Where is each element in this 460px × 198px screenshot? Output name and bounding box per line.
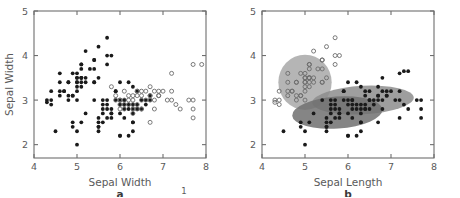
data-point-open xyxy=(148,85,152,89)
data-point-filled xyxy=(282,129,286,133)
data-point-filled xyxy=(97,129,101,133)
data-point-filled xyxy=(325,120,329,124)
data-point-filled xyxy=(92,80,96,84)
data-point-open xyxy=(312,49,316,53)
data-point-filled xyxy=(105,63,109,67)
x-tick-label: 6 xyxy=(345,161,351,172)
data-point-filled xyxy=(346,103,350,107)
panel-a-plot-area: 456782345Sepal WidthSepal Widtha1 xyxy=(3,6,209,198)
x-tick-label: 4 xyxy=(31,161,37,172)
data-point-filled xyxy=(338,116,342,120)
data-point-open xyxy=(191,98,195,102)
corner-label: 1 xyxy=(181,186,186,196)
data-point-filled xyxy=(372,98,376,102)
data-point-filled xyxy=(355,80,359,84)
data-point-open xyxy=(333,36,337,40)
data-point-filled xyxy=(329,103,333,107)
data-point-filled xyxy=(110,54,114,58)
x-tick-label: 6 xyxy=(117,161,123,172)
data-point-filled xyxy=(49,89,53,93)
data-point-open xyxy=(170,89,174,93)
data-point-open xyxy=(131,98,135,102)
data-point-filled xyxy=(419,107,423,111)
data-point-filled xyxy=(359,129,363,133)
data-point-filled xyxy=(368,107,372,111)
data-point-filled xyxy=(79,76,83,80)
data-point-open xyxy=(114,94,118,98)
data-point-filled xyxy=(385,94,389,98)
data-point-filled xyxy=(71,71,75,75)
data-point-filled xyxy=(92,98,96,102)
data-point-filled xyxy=(381,89,385,93)
scatter-panel-b: 456782345Sepal Lengthb xyxy=(228,0,460,197)
data-point-filled xyxy=(329,98,333,102)
data-point-filled xyxy=(398,89,402,93)
y-tick-label: 3 xyxy=(22,95,28,106)
data-point-filled xyxy=(363,89,367,93)
data-point-filled xyxy=(84,80,88,84)
data-point-filled xyxy=(58,80,62,84)
data-point-filled xyxy=(75,143,79,147)
data-point-filled xyxy=(381,98,385,102)
y-tick-label: 2 xyxy=(22,139,28,150)
data-point-filled xyxy=(97,76,101,80)
data-point-filled xyxy=(67,94,71,98)
data-point-filled xyxy=(376,94,380,98)
data-point-filled xyxy=(329,112,333,116)
data-point-filled xyxy=(79,80,83,84)
data-point-open xyxy=(152,89,156,93)
x-tick-label: 7 xyxy=(388,161,394,172)
data-point-filled xyxy=(71,125,75,129)
data-point-filled xyxy=(372,103,376,107)
data-point-filled xyxy=(49,103,53,107)
data-point-filled xyxy=(398,116,402,120)
data-point-open xyxy=(333,54,337,58)
data-point-open xyxy=(333,62,337,66)
data-point-filled xyxy=(127,134,131,138)
data-point-filled xyxy=(320,98,324,102)
figure-container: 456782345Sepal WidthSepal Widtha1 456782… xyxy=(0,0,460,197)
data-point-filled xyxy=(398,98,402,102)
data-point-open xyxy=(200,62,204,66)
data-point-filled xyxy=(79,85,83,89)
data-point-filled xyxy=(325,125,329,129)
data-point-open xyxy=(191,62,195,66)
data-point-open xyxy=(135,94,139,98)
data-point-filled xyxy=(355,103,359,107)
data-point-filled xyxy=(101,98,105,102)
data-point-open xyxy=(127,94,131,98)
data-point-filled xyxy=(84,49,88,53)
data-point-filled xyxy=(325,129,329,133)
data-point-open xyxy=(118,107,122,111)
data-point-filled xyxy=(350,98,354,102)
data-point-filled xyxy=(101,107,105,111)
data-point-filled xyxy=(333,98,337,102)
data-point-filled xyxy=(402,69,406,73)
y-tick-label: 2 xyxy=(250,139,256,150)
x-axis-title: Sepal Width xyxy=(89,176,152,188)
data-point-open xyxy=(152,107,156,111)
data-point-open xyxy=(165,98,169,102)
data-point-filled xyxy=(75,85,79,89)
data-point-filled xyxy=(71,120,75,124)
panel-letter: a xyxy=(116,188,123,197)
data-point-open xyxy=(131,94,135,98)
data-point-open xyxy=(191,107,195,111)
data-point-filled xyxy=(58,94,62,98)
data-point-filled xyxy=(398,71,402,75)
data-point-filled xyxy=(131,120,135,124)
data-point-filled xyxy=(307,120,311,124)
data-point-filled xyxy=(350,116,354,120)
data-point-open xyxy=(170,71,174,75)
data-point-filled xyxy=(355,107,359,111)
data-point-filled xyxy=(97,45,101,49)
data-point-filled xyxy=(299,125,303,129)
data-point-filled xyxy=(329,120,333,124)
data-point-filled xyxy=(101,103,105,107)
data-point-open xyxy=(157,94,161,98)
data-point-filled xyxy=(105,103,109,107)
data-point-filled xyxy=(359,120,363,124)
data-point-filled xyxy=(75,76,79,80)
data-point-filled xyxy=(299,120,303,124)
data-point-filled xyxy=(376,98,380,102)
